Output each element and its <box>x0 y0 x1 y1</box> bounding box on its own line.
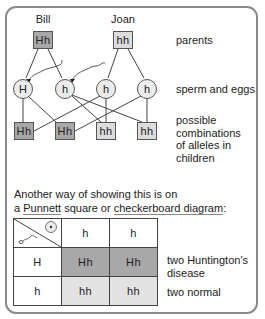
punnett-cell: hh <box>62 277 110 306</box>
mother-genotype: hh <box>113 31 133 49</box>
label-children: possible combinations of alleles in chil… <box>176 114 241 164</box>
gamete-sperm-2: h <box>55 79 75 99</box>
child-3: hh <box>96 122 116 140</box>
child-2: Hh <box>55 122 75 140</box>
punnett-cell: Hh <box>62 248 110 277</box>
punnett-corner <box>14 219 62 248</box>
gamete-sperm-1: H <box>13 79 33 99</box>
punnett-cell: Hh <box>110 248 158 277</box>
note-huntingtons: two Huntington's disease <box>167 254 248 279</box>
punnett-cell: hh <box>110 277 158 306</box>
intro-text: Another way of showing this is on a Punn… <box>14 188 254 215</box>
child-1: Hh <box>14 122 34 140</box>
sperm-icon <box>19 235 37 243</box>
gamete-egg-2: h <box>137 79 157 99</box>
row-header-1: H <box>14 248 62 277</box>
father-name: Bill <box>23 13 63 25</box>
father-genotype: Hh <box>33 31 53 49</box>
col-header-2: h <box>110 219 158 248</box>
note-normal: two normal <box>167 286 221 299</box>
egg-icon <box>46 222 57 233</box>
punnett-term: Punnett <box>23 202 61 215</box>
child-4: hh <box>137 122 157 140</box>
gamete-egg-1: h <box>96 79 116 99</box>
row-header-2: h <box>14 277 62 306</box>
label-gametes: sperm and eggs <box>176 83 255 96</box>
mother-name: Joan <box>103 13 143 25</box>
punnett-square: h h H Hh Hh h hh hh <box>13 218 158 306</box>
col-header-1: h <box>62 219 110 248</box>
checkerboard-term: checkerboard diagram <box>114 202 223 215</box>
label-parents: parents <box>176 34 213 47</box>
